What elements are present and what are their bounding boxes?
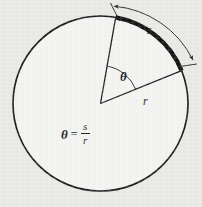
circle-arc-diagram (0, 0, 202, 207)
angle-label-theta: θ (120, 70, 127, 83)
equation-fraction: s r (81, 121, 90, 146)
arc-length-label-s: s (147, 24, 152, 36)
radius-label-r: r (143, 95, 148, 107)
equation-denominator-r: r (82, 134, 88, 146)
equation-theta-equals-s-over-r: θ = s r (61, 122, 90, 147)
equation-numerator-s: s (82, 121, 88, 133)
figure-canvas: s r θ θ = s r (0, 0, 202, 207)
equation-lhs-theta: θ (61, 127, 68, 143)
equation-equals-sign: = (71, 127, 78, 142)
